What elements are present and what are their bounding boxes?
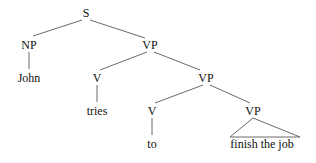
syntax-tree-diagram: S NP VP John V VP tries V VP to finish t… xyxy=(0,0,316,163)
node-s: S xyxy=(83,6,90,20)
node-vp: VP xyxy=(142,38,158,52)
edge-vp-v xyxy=(100,52,147,70)
edge-s-np xyxy=(33,20,82,36)
tree-edges xyxy=(29,20,300,137)
node-v-2: V xyxy=(148,104,157,118)
node-vp-2: VP xyxy=(198,71,214,85)
leaf-to: to xyxy=(147,137,156,151)
leaf-finish-the-job: finish the job xyxy=(230,137,293,151)
node-v: V xyxy=(93,71,102,85)
node-vp-3: VP xyxy=(245,104,261,118)
node-np: NP xyxy=(21,38,37,52)
edge-vp2-v2 xyxy=(155,85,203,103)
edge-vp-vp xyxy=(154,52,200,70)
edge-s-vp xyxy=(90,20,145,38)
leaf-tries: tries xyxy=(87,104,108,118)
edge-vp2-vp3 xyxy=(210,85,250,103)
leaf-john: John xyxy=(18,71,41,85)
triangle-vp3-finish xyxy=(230,118,300,137)
